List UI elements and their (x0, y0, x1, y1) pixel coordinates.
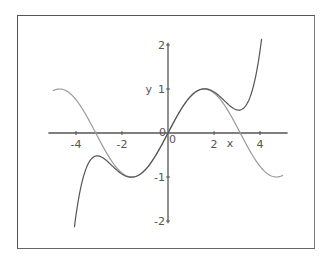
y-tick-label: 2 (158, 39, 165, 52)
x-tick-label: 4 (257, 138, 264, 151)
y-tick-label: 1 (158, 83, 165, 96)
x-axis-label: x (227, 137, 234, 150)
origin-label-y: 0 (159, 126, 166, 139)
y-tick-label: -1 (154, 171, 165, 184)
x-tick-label: -2 (117, 138, 128, 151)
x-tick-label: -4 (71, 138, 82, 151)
origin-label-x: 0 (169, 133, 176, 146)
x-tick-label: 2 (211, 138, 218, 151)
y-axis-label: y (145, 83, 152, 96)
plot-area: -4-224-2-11200xy (0, 0, 333, 264)
y-tick-label: -2 (154, 215, 165, 228)
